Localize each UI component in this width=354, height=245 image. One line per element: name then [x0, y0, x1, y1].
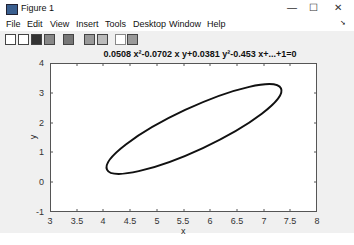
dock-arrow-icon[interactable]: ➘ [340, 19, 346, 27]
toolbar [0, 31, 354, 48]
menu-desktop[interactable]: Desktop [133, 19, 166, 29]
menu-edit[interactable]: Edit [27, 19, 43, 29]
title-bar: Figure 1 — ☐ ✕ [0, 0, 354, 18]
x-tick-label: 4.5 [124, 216, 137, 226]
menu-window[interactable]: Window [169, 19, 201, 29]
x-tick-label: 7.5 [284, 216, 297, 226]
close-button[interactable]: ✕ [330, 2, 346, 13]
print-icon[interactable] [44, 34, 55, 45]
x-axis-label: x [181, 226, 186, 236]
plot-axes[interactable] [50, 63, 317, 212]
menu-file[interactable]: File [6, 19, 21, 29]
link-plot-icon[interactable] [63, 34, 74, 45]
menu-bar: File Edit View Insert Tools Desktop Wind… [0, 18, 354, 31]
menu-view[interactable]: View [50, 19, 69, 29]
menu-tools[interactable]: Tools [105, 19, 126, 29]
x-tick-label: 8 [314, 216, 319, 226]
y-tick-label: -1 [30, 207, 44, 217]
new-figure-icon[interactable] [5, 34, 16, 45]
bottom-strip [0, 233, 354, 245]
plot-tools-icon[interactable] [127, 34, 138, 45]
x-tick-label: 5 [154, 216, 159, 226]
pointer-icon[interactable] [115, 34, 126, 45]
insert-legend-icon[interactable] [97, 34, 108, 45]
figure-app-icon [6, 4, 18, 15]
window-title: Figure 1 [21, 3, 54, 13]
y-tick-label: 2 [30, 118, 44, 128]
y-tick-label: 4 [30, 58, 44, 68]
x-tick-label: 6.5 [231, 216, 244, 226]
ellipse-plot [50, 63, 317, 212]
x-tick-label: 6 [207, 216, 212, 226]
minimize-button[interactable]: — [284, 2, 300, 13]
x-tick-label: 3.5 [71, 216, 84, 226]
y-tick-label: 0 [30, 177, 44, 187]
y-tick-label: 3 [30, 88, 44, 98]
menu-help[interactable]: Help [207, 19, 226, 29]
menu-insert[interactable]: Insert [76, 19, 99, 29]
save-icon[interactable] [31, 34, 42, 45]
y-axis-label: y [28, 135, 38, 140]
open-file-icon[interactable] [18, 34, 29, 45]
insert-colorbar-icon[interactable] [84, 34, 95, 45]
x-tick-label: 7 [261, 216, 266, 226]
maximize-button[interactable]: ☐ [305, 2, 321, 13]
x-tick-label: 3 [47, 216, 52, 226]
x-tick-label: 5.5 [177, 216, 190, 226]
x-tick-label: 4 [100, 216, 105, 226]
y-tick-label: 1 [30, 147, 44, 157]
plot-title: 0.0508 x²-0.0702 x y+0.0381 y²-0.453 x+.… [60, 49, 340, 59]
